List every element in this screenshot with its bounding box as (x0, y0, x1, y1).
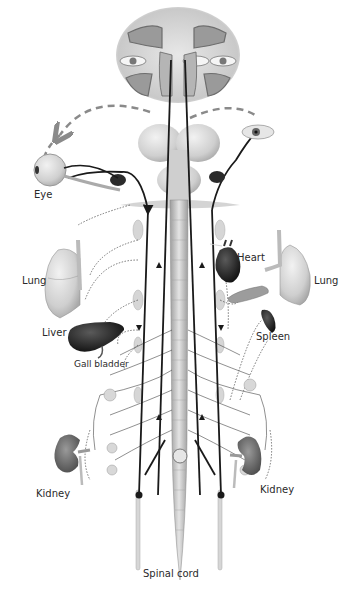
label-eye-left: Eye (34, 190, 52, 200)
label-gall-bladder: Gall bladder (74, 360, 129, 369)
label-liver: Liver (42, 328, 67, 338)
label-kidney-right: Kidney (260, 485, 294, 495)
spleen-illustration (261, 310, 275, 333)
kidney-right-illustration (230, 436, 261, 488)
right-eye-illustration (242, 125, 274, 139)
lung-right-illustration (265, 230, 310, 305)
autonomic-nervous-system-diagram: Eye Lung Liver Gall bladder Kidney Heart… (0, 0, 358, 599)
spinal-cord (170, 200, 188, 580)
label-lung-right: Lung (314, 276, 338, 286)
liver-illustration (68, 322, 124, 358)
ganglion-left (110, 174, 126, 186)
label-spinal-cord: Spinal cord (143, 569, 199, 579)
ganglion-right (209, 171, 225, 183)
left-eye-illustration (34, 154, 120, 190)
face-sinus-illustration (116, 7, 240, 103)
pancreas-illustration (228, 286, 268, 303)
brain-stem (120, 124, 240, 209)
label-kidney-left: Kidney (36, 489, 70, 499)
dashed-arrow-right (190, 108, 255, 118)
lung-left-illustration (45, 240, 80, 318)
label-spleen: Spleen (256, 332, 290, 342)
label-heart: Heart (237, 253, 265, 263)
label-lung-left: Lung (22, 276, 46, 286)
dashed-arrow-left (60, 106, 150, 135)
